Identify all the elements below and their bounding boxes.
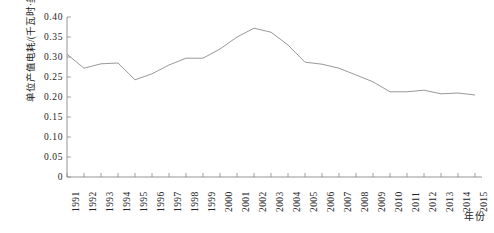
x-axis-tick-labels: 1991199219931994199519961997199819992000… bbox=[67, 180, 487, 220]
x-tick-label: 1992 bbox=[88, 191, 98, 212]
line-chart: 单位产值电耗/(千瓦时·美元⁻¹) 0.400.350.300.250.200.… bbox=[0, 0, 494, 233]
x-tick-label: 1991 bbox=[71, 191, 81, 212]
x-tick-label: 2005 bbox=[309, 191, 319, 212]
x-tick-label: 2011 bbox=[411, 192, 421, 212]
data-series-line bbox=[67, 28, 475, 95]
x-tick-label: 1999 bbox=[207, 191, 217, 212]
x-tick-label: 1996 bbox=[156, 191, 166, 212]
x-tick-label: 2004 bbox=[292, 191, 302, 212]
x-tick-label: 2003 bbox=[275, 191, 285, 212]
x-tick-label: 2008 bbox=[360, 191, 370, 212]
x-tick-label: 1997 bbox=[173, 191, 183, 212]
axis-lines bbox=[67, 17, 482, 177]
x-tick-label: 1998 bbox=[190, 191, 200, 212]
x-tick-label: 2002 bbox=[258, 191, 268, 212]
x-tick-label: 1995 bbox=[139, 191, 149, 212]
x-tick-label: 2006 bbox=[326, 191, 336, 212]
x-tick-label: 2009 bbox=[377, 191, 387, 212]
x-tick-label: 1994 bbox=[122, 191, 132, 212]
x-tick-label: 1993 bbox=[105, 191, 115, 212]
x-tick-label: 2000 bbox=[224, 191, 234, 212]
x-tick-label: 2010 bbox=[394, 191, 404, 212]
axis-ticks bbox=[67, 17, 475, 177]
x-tick-label: 2001 bbox=[241, 191, 251, 212]
x-tick-label: 2007 bbox=[343, 191, 353, 212]
x-axis-title: 年份 bbox=[464, 208, 486, 223]
x-tick-label: 2012 bbox=[428, 191, 438, 212]
x-tick-label: 2013 bbox=[445, 191, 455, 212]
